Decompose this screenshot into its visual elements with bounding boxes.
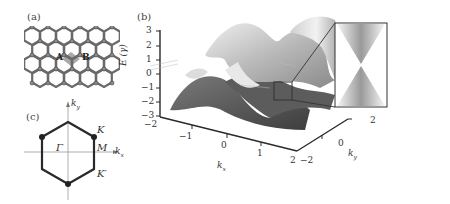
- kx-axis-label: kx: [115, 146, 124, 158]
- x-tick-0: 0: [221, 140, 227, 150]
- x-tick-1: 1: [257, 148, 263, 158]
- x-tick-m1: −1: [179, 131, 192, 141]
- graphene-lattice: [24, 26, 120, 92]
- z-tick-0: 0: [146, 68, 152, 78]
- site-label-b: B: [82, 52, 90, 62]
- y-tick-2: 2: [370, 115, 376, 125]
- z-tick-m1: −1: [141, 82, 154, 92]
- band-structure-plot: [130, 0, 450, 204]
- panel-a-label: (a): [27, 11, 41, 22]
- z-tick-2: 2: [146, 40, 152, 50]
- m-point-label: M: [97, 142, 107, 153]
- x-axis-label: kx: [217, 160, 226, 172]
- site-label-a: A: [56, 52, 63, 62]
- k-point-label: K: [97, 124, 104, 135]
- brillouin-zone: [20, 100, 130, 204]
- z-tick-m2: −2: [141, 96, 154, 106]
- k-prime-point-label: K′: [97, 168, 107, 179]
- z-axis-label: E (γ): [118, 44, 128, 66]
- x-tick-m2: −2: [144, 119, 157, 129]
- y-tick-0: 0: [338, 138, 344, 148]
- x-tick-2: 2: [290, 155, 296, 165]
- ky-axis-label: ky: [71, 98, 80, 110]
- z-tick-3: 3: [146, 25, 152, 35]
- gamma-point-label: Γ: [56, 142, 63, 153]
- y-tick-m2: −2: [300, 155, 313, 165]
- dirac-cone-inset: [335, 23, 387, 107]
- y-axis-label: ky: [348, 148, 357, 160]
- z-tick-1: 1: [146, 54, 152, 64]
